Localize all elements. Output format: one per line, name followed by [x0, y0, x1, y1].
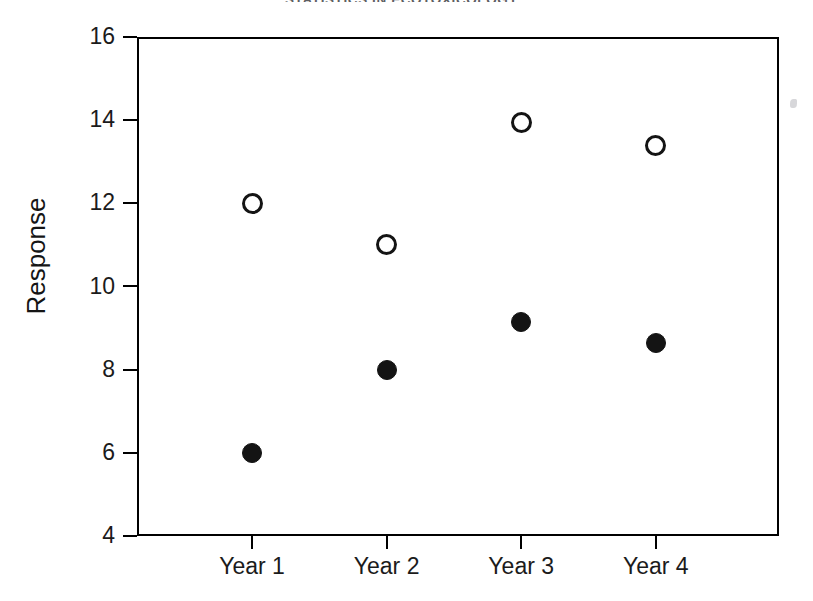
y-axis-tick — [123, 285, 137, 287]
data-point-open-circle — [242, 193, 263, 214]
x-axis-tick — [655, 536, 657, 549]
y-axis-tick — [123, 452, 137, 454]
y-axis-tick-label: 4 — [61, 524, 115, 547]
x-axis-tick — [251, 536, 253, 549]
y-axis-tick — [123, 535, 137, 537]
y-axis-tick-label: 14 — [61, 108, 115, 131]
y-axis-tick — [123, 202, 137, 204]
data-point-filled-circle — [242, 443, 262, 463]
x-axis-tick-label: Year 4 — [576, 553, 736, 579]
y-axis-tick — [123, 36, 137, 38]
data-point-open-circle — [645, 135, 666, 156]
data-point-filled-circle — [377, 360, 397, 380]
scan-artifact-speck — [790, 99, 797, 108]
data-point-open-circle — [511, 112, 532, 133]
y-axis-tick-label: 6 — [61, 441, 115, 464]
y-axis-tick — [123, 119, 137, 121]
x-axis-tick — [386, 536, 388, 549]
y-axis-tick-label: 12 — [61, 191, 115, 214]
y-axis-title: Response — [23, 156, 49, 356]
data-point-filled-circle — [511, 312, 531, 332]
scatter-chart-figure: Response 46810121416Year 1Year 2Year 3Ye… — [0, 0, 813, 601]
y-axis-tick-label: 16 — [61, 25, 115, 48]
y-axis-tick-label: 8 — [61, 358, 115, 381]
data-point-filled-circle — [646, 333, 666, 353]
y-axis-tick-label: 10 — [61, 275, 115, 298]
plot-frame — [137, 37, 779, 536]
y-axis-tick — [123, 369, 137, 371]
x-axis-tick — [520, 536, 522, 549]
